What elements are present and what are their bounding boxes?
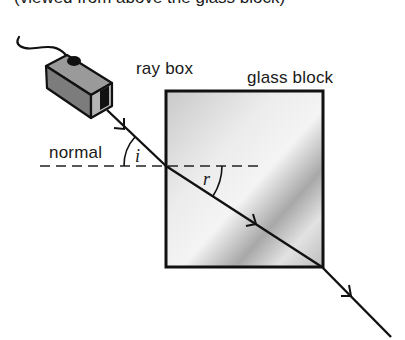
ray-box-label: ray box — [136, 60, 193, 77]
emergent-ray — [322, 267, 391, 337]
angle-arc-incidence — [124, 137, 135, 166]
refraction-diagram: (viewed from above the glass block) — [0, 0, 405, 340]
glass-block-label: glass block — [247, 69, 333, 86]
ray-box-icon — [46, 55, 112, 118]
angle-i-label: i — [135, 147, 140, 165]
normal-label: normal — [49, 144, 102, 161]
glass-block — [166, 91, 323, 267]
angle-r-label: r — [203, 170, 210, 188]
